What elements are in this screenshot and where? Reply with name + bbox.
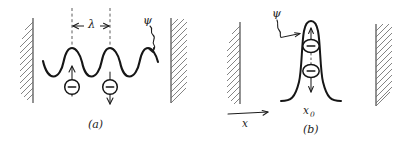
x-axis-arrow: x [228,111,268,129]
wavelength-label: λ [87,17,95,31]
panel-b-right-wall [376,24,392,106]
panel-a-caption: (a) [88,118,103,131]
panel-a-left-wall [20,18,33,103]
axis-arrowhead [262,111,268,116]
wall-hatching [227,26,240,104]
physics-figure: λ ψ (a) [0,0,407,142]
wall-hatching [20,22,33,100]
wall-hatching [171,19,187,103]
panel-a-electron-up [65,66,80,96]
panel-a-electron-down [103,72,118,104]
panel-b: ψ x 0 [227,6,392,136]
panel-a: λ ψ (a) [20,8,187,131]
panel-b-left-wall [227,22,240,104]
panel-a-right-wall [171,18,187,103]
psi-leader-zigzag [277,20,300,38]
panel-b-electron-up [303,28,319,53]
axis-shaft [228,112,268,114]
panel-b-electron-down [303,64,319,92]
position-label: x [303,104,309,116]
panel-b-caption: (b) [303,123,319,136]
figure-canvas: λ ψ (a) [0,0,407,142]
wavefunction-label: ψ [143,13,153,27]
wall-hatching [376,24,392,106]
position-label-x0: x 0 [303,104,315,119]
wavefunction-label: ψ [272,6,282,20]
position-subscript: 0 [310,110,315,119]
axis-label: x [242,117,248,129]
standing-wave [43,48,158,77]
